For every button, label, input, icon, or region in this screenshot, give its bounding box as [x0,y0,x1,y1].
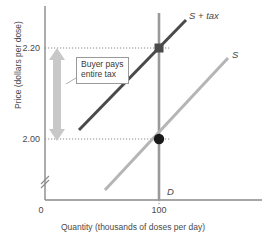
y-axis-title-wrapper: Price (dollars per dose) [7,13,25,117]
curve-label-supply-plus-tax: S + tax [189,10,219,21]
x-axis-title: Quantity (thousands of doses per day) [0,222,266,232]
chart-canvas [0,0,266,239]
marker-equilibrium-no-tax [154,134,164,144]
callout-leader-line [66,78,76,84]
x-tick-label-0: 0 [33,205,49,215]
curve-label-supply: S [232,49,238,60]
curve-label-demand: D [167,186,174,197]
y-axis-title: Price (dollars per dose) [13,21,23,109]
callout-line-2: entire tax [81,70,124,80]
y-tick-label-200: 2.00 [2,134,40,144]
tax-incidence-arrow [49,48,65,141]
supply-demand-tax-chart: 2.20 2.00 0 100 Price (dollars per dose)… [0,0,266,239]
tax-incidence-callout: Buyer pays entire tax [76,57,129,84]
marker-equilibrium-with-tax [155,44,164,53]
x-tick-label-100: 100 [145,205,173,215]
